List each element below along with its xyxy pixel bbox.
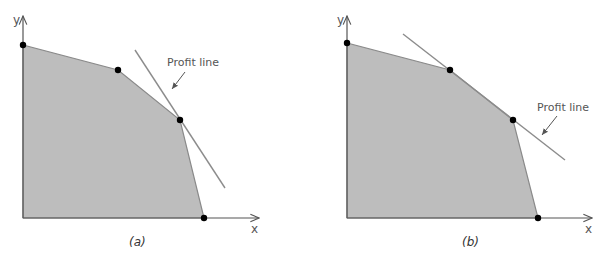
x-axis-label-a: x — [251, 222, 258, 236]
vertex-b-4 — [535, 215, 541, 221]
feasible-region-a — [23, 45, 204, 218]
caption-b: (b) — [462, 235, 479, 249]
profit-line-label-b: Profit line — [537, 101, 589, 114]
panel-b: y x Profit line (b) — [337, 13, 592, 249]
panel-a: y x Profit line (a) — [13, 13, 259, 249]
figure-canvas: y x Profit line (a) y x Profit line (b) — [0, 0, 609, 262]
feasible-region-b — [347, 43, 538, 218]
vertex-a-optimal — [177, 117, 183, 123]
vertex-a-1 — [20, 42, 26, 48]
x-axis-label-b: x — [585, 222, 592, 236]
vertex-b-optimal-1 — [447, 67, 453, 73]
caption-a: (a) — [129, 235, 146, 249]
pointer-arrow-a — [172, 72, 185, 89]
vertex-a-4 — [201, 215, 207, 221]
vertex-a-2 — [115, 67, 121, 73]
y-axis-label-b: y — [337, 13, 344, 27]
profit-line-label-a: Profit line — [167, 56, 219, 69]
pointer-arrow-b — [542, 116, 557, 135]
vertex-b-1 — [344, 40, 350, 46]
y-axis-label-a: y — [13, 13, 20, 27]
vertex-b-optimal-2 — [510, 117, 516, 123]
